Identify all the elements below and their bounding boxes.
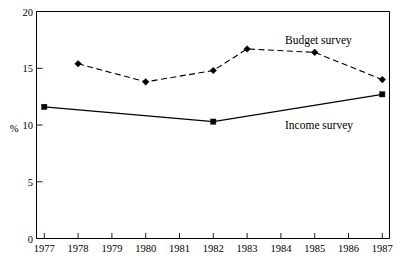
y-tick-label-15: 15 — [23, 63, 34, 74]
series-layer — [42, 46, 386, 125]
x-tick-label-1981: 1981 — [169, 243, 190, 254]
x-tick-label-1986: 1986 — [338, 243, 359, 254]
data-point — [311, 49, 318, 56]
x-tick-label-1979: 1979 — [101, 243, 122, 254]
x-tick-label-1977: 1977 — [34, 243, 55, 254]
data-point — [244, 46, 251, 53]
data-point — [211, 119, 216, 124]
series-budget-survey — [75, 46, 386, 86]
chart-container: 20 15 10 5 0 % 1977 1978 1979 198 — [0, 0, 403, 267]
x-tick-marks — [44, 233, 382, 239]
y-axis-title: % — [10, 123, 19, 134]
data-point — [210, 67, 217, 74]
line-chart: 20 15 10 5 0 % 1977 1978 1979 198 — [0, 0, 403, 267]
y-tick-label-10: 10 — [23, 120, 34, 131]
series-line — [44, 94, 382, 121]
data-point — [379, 76, 386, 83]
series-label-budget-survey: Budget survey — [285, 34, 352, 47]
data-point — [75, 60, 82, 67]
y-tick-label-20: 20 — [23, 7, 34, 18]
y-tick-labels: 20 15 10 5 0 — [23, 7, 34, 245]
x-tick-label-1980: 1980 — [135, 243, 156, 254]
x-tick-label-1983: 1983 — [237, 243, 258, 254]
x-tick-label-1982: 1982 — [203, 243, 224, 254]
x-tick-label-1984: 1984 — [270, 243, 292, 254]
y-tick-label-0: 0 — [28, 234, 33, 245]
series-line — [78, 49, 382, 82]
x-tick-label-1987: 1987 — [372, 243, 393, 254]
y-tick-marks — [37, 12, 43, 239]
x-tick-labels: 1977 1978 1979 1980 1981 1982 1983 1984 … — [34, 243, 393, 254]
x-tick-label-1978: 1978 — [68, 243, 89, 254]
data-point — [380, 92, 385, 97]
data-point — [142, 79, 149, 86]
x-tick-label-1985: 1985 — [304, 243, 325, 254]
series-label-income-survey: Income survey — [285, 119, 353, 132]
y-tick-label-5: 5 — [28, 177, 33, 188]
data-point — [42, 104, 47, 109]
